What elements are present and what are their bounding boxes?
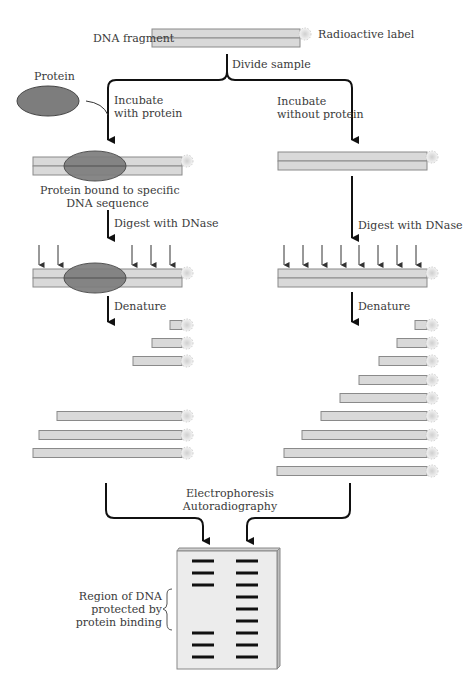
region-brace — [163, 589, 172, 630]
radioactive-label-icon — [426, 465, 438, 477]
radioactive-label-icon — [181, 410, 193, 422]
labeled-fragment — [57, 410, 193, 422]
radioactive-label-icon — [299, 28, 311, 40]
radioactive-label-icon — [181, 355, 193, 367]
label-radioactive: Radioactive label — [318, 28, 414, 41]
labeled-fragment — [359, 374, 438, 386]
radioactive-label-icon — [181, 337, 193, 349]
gel-band — [236, 656, 258, 659]
radioactive-label-icon — [426, 337, 438, 349]
labeled-fragment — [277, 465, 438, 477]
label-divide-sample: Divide sample — [232, 58, 311, 71]
label-protected-region: Region of DNAprotected byprotein binding — [50, 590, 162, 629]
dnase-cut-arrows-left — [39, 245, 170, 265]
dna-digested-protected — [33, 263, 193, 293]
label-protein: Protein — [34, 70, 75, 83]
radioactive-label-icon — [426, 410, 438, 422]
labeled-fragment — [33, 447, 193, 459]
label-denature-right: Denature — [358, 300, 410, 313]
radioactive-label-icon — [426, 429, 438, 441]
labeled-fragment — [379, 355, 438, 367]
gel-band — [236, 620, 258, 623]
label-dna-fragment: DNA fragment — [93, 32, 174, 45]
gel-band — [192, 584, 214, 587]
gel — [177, 548, 280, 669]
dna-fragment-top — [152, 28, 311, 47]
labeled-fragment — [170, 319, 193, 331]
dna-no-protein — [278, 151, 438, 170]
labeled-fragment — [284, 447, 438, 459]
gel-band — [236, 632, 258, 635]
radioactive-label-icon — [426, 319, 438, 331]
radioactive-label-icon — [426, 355, 438, 367]
labeled-fragment — [302, 429, 438, 441]
gel-band — [236, 644, 258, 647]
gel-band — [236, 596, 258, 599]
dna-protein-bound — [33, 151, 193, 181]
label-incubate-with: Incubatewith protein — [114, 94, 182, 120]
labeled-fragment — [152, 337, 193, 349]
radioactive-label-icon — [181, 447, 193, 459]
gel-band — [192, 644, 214, 647]
labeled-fragment — [39, 429, 193, 441]
radioactive-label-icon — [181, 429, 193, 441]
labeled-fragment — [397, 337, 438, 349]
gel-band — [192, 572, 214, 575]
label-protein-bound: Protein bound to specificDNA sequence — [40, 184, 175, 210]
gel-band — [236, 560, 258, 563]
radioactive-label-icon — [426, 392, 438, 404]
labeled-fragment — [321, 410, 438, 422]
gel-lane-right — [236, 560, 258, 659]
gel-band — [192, 632, 214, 635]
labeled-fragment — [340, 392, 438, 404]
gel-band — [236, 572, 258, 575]
gel-band — [236, 584, 258, 587]
fragments-right — [277, 319, 438, 477]
gel-band — [192, 656, 214, 659]
radioactive-label-icon — [181, 319, 193, 331]
protein-pointer — [86, 101, 108, 115]
label-digest-left: Digest with DNase — [114, 217, 219, 230]
radioactive-label-icon — [426, 374, 438, 386]
labeled-fragment — [133, 355, 193, 367]
radioactive-label-icon — [426, 447, 438, 459]
label-digest-right: Digest with DNase — [358, 219, 463, 232]
gel-band — [192, 560, 214, 563]
label-denature-left: Denature — [114, 300, 166, 313]
label-electrophoresis: ElectrophoresisAutoradiography — [170, 487, 290, 513]
fragments-left — [33, 319, 193, 459]
dna-digested-unprotected — [278, 267, 438, 287]
label-incubate-without: Incubatewithout protein — [277, 95, 364, 121]
dnase-cut-arrows-right — [284, 245, 416, 265]
labeled-fragment — [415, 319, 438, 331]
gel-band — [236, 608, 258, 611]
protein-icon — [17, 86, 79, 116]
